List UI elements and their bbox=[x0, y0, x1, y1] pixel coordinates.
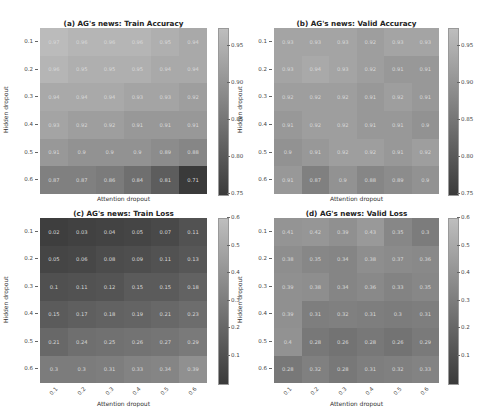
heatmap-cell: 0.43 bbox=[357, 218, 385, 246]
colorbar-tick-label: 0.1 bbox=[231, 352, 240, 358]
heatmap-cell: 0.92 bbox=[302, 111, 330, 139]
heatmap-cell: 0.37 bbox=[384, 246, 412, 274]
heatmap-cell: 0.17 bbox=[68, 301, 96, 329]
colorbar-tick-label: 0.85 bbox=[461, 116, 473, 122]
x-axis-label: Attention dropout bbox=[274, 400, 439, 407]
heatmap-cell: 0.31 bbox=[302, 301, 330, 329]
heatmap-cell: 0.92 bbox=[384, 83, 412, 111]
heatmap-cell: 0.12 bbox=[96, 273, 124, 301]
y-axis-label: Hidden dropout bbox=[236, 276, 243, 323]
x-tick-label: 0.3 bbox=[337, 386, 347, 396]
heatmap-cell: 0.28 bbox=[274, 356, 302, 384]
colorbar-tick-label: 0.80 bbox=[231, 153, 243, 159]
heatmap-cell: 0.9 bbox=[96, 139, 124, 167]
heatmap-cell: 0.27 bbox=[151, 328, 179, 356]
heatmap-cell: 0.34 bbox=[151, 356, 179, 384]
x-tick-label: 0.3 bbox=[104, 386, 114, 396]
x-tick-label: 0.4 bbox=[364, 386, 374, 396]
heatmap-cell: 0.1 bbox=[40, 273, 68, 301]
heatmap-cell: 0.91 bbox=[357, 111, 385, 139]
heatmap-cell: 0.91 bbox=[384, 111, 412, 139]
y-tick-label: 0.4 bbox=[249, 310, 267, 316]
heatmap-cell: 0.91 bbox=[412, 56, 440, 84]
heatmap-cell: 0.26 bbox=[124, 328, 152, 356]
heatmap-cell: 0.33 bbox=[412, 356, 440, 384]
y-axis-label: Hidden dropout bbox=[236, 86, 243, 133]
y-tick-label: 0.1 bbox=[249, 228, 267, 234]
heatmap-cell: 0.04 bbox=[96, 218, 124, 246]
heatmap-cell: 0.15 bbox=[40, 301, 68, 329]
colorbar-tick-label: 0.75 bbox=[461, 190, 473, 196]
y-tick-label: 0.1 bbox=[15, 228, 33, 234]
colorbar bbox=[218, 28, 229, 196]
heatmap-cell: 0.94 bbox=[302, 56, 330, 84]
heatmap-cell: 0.11 bbox=[151, 246, 179, 274]
heatmap-cell: 0.88 bbox=[179, 139, 207, 167]
colorbar bbox=[448, 28, 459, 196]
heatmap-cell: 0.88 bbox=[357, 166, 385, 194]
colorbar-tick-label: 0.4 bbox=[461, 269, 470, 275]
heatmap-cell: 0.13 bbox=[179, 246, 207, 274]
heatmap-cell: 0.91 bbox=[124, 111, 152, 139]
heatmap-cell: 0.91 bbox=[302, 139, 330, 167]
heatmap-cell: 0.28 bbox=[302, 328, 330, 356]
x-tick-label: 0.6 bbox=[187, 386, 197, 396]
x-tick-label: 0.5 bbox=[392, 386, 402, 396]
x-tick-label: 0.1 bbox=[282, 386, 292, 396]
y-tick-label: 0.6 bbox=[249, 365, 267, 371]
heatmap-cell: 0.92 bbox=[274, 83, 302, 111]
heatmap-cell: 0.05 bbox=[40, 246, 68, 274]
heatmap-cell: 0.89 bbox=[384, 166, 412, 194]
heatmap-grid: 0.410.420.390.430.350.30.380.350.340.380… bbox=[274, 218, 439, 383]
heatmap-cell: 0.92 bbox=[68, 111, 96, 139]
y-tick-label: 0.3 bbox=[249, 93, 267, 99]
y-tick-label: 0.2 bbox=[249, 66, 267, 72]
colorbar-tick-label: 0.75 bbox=[231, 190, 243, 196]
colorbar-tick-label: 0.4 bbox=[231, 269, 240, 275]
heatmap-cell: 0.92 bbox=[357, 139, 385, 167]
heatmap-cell: 0.19 bbox=[124, 301, 152, 329]
heatmap-cell: 0.94 bbox=[179, 28, 207, 56]
y-axis-label: Hidden dropout bbox=[2, 86, 9, 133]
heatmap-cell: 0.93 bbox=[124, 83, 152, 111]
heatmap-cell: 0.92 bbox=[412, 139, 440, 167]
heatmap-cell: 0.92 bbox=[302, 83, 330, 111]
colorbar-tick-label: 0.2 bbox=[461, 324, 470, 330]
heatmap-cell: 0.95 bbox=[151, 28, 179, 56]
heatmap-cell: 0.91 bbox=[384, 56, 412, 84]
heatmap-cell: 0.36 bbox=[357, 273, 385, 301]
heatmap-cell: 0.9 bbox=[412, 166, 440, 194]
y-tick-label: 0.1 bbox=[249, 38, 267, 44]
heatmap-cell: 0.94 bbox=[151, 56, 179, 84]
heatmap-cell: 0.05 bbox=[124, 218, 152, 246]
heatmap-cell: 0.92 bbox=[329, 111, 357, 139]
heatmap-cell: 0.31 bbox=[412, 301, 440, 329]
heatmap-cell: 0.95 bbox=[124, 56, 152, 84]
heatmap-cell: 0.32 bbox=[329, 301, 357, 329]
chart-title: (a) AG's news: Train Accuracy bbox=[40, 19, 207, 28]
heatmap-cell: 0.91 bbox=[151, 111, 179, 139]
heatmap-cell: 0.25 bbox=[96, 328, 124, 356]
colorbar-tick-label: 0.95 bbox=[461, 42, 473, 48]
chart-title: (d) AG's news: Valid Loss bbox=[274, 209, 439, 218]
heatmap-cell: 0.86 bbox=[96, 166, 124, 194]
heatmap-cell: 0.34 bbox=[329, 246, 357, 274]
heatmap-cell: 0.24 bbox=[68, 328, 96, 356]
heatmap-cell: 0.87 bbox=[68, 166, 96, 194]
heatmap-cell: 0.35 bbox=[302, 246, 330, 274]
y-tick-label: 0.6 bbox=[15, 176, 33, 182]
heatmap-cell: 0.92 bbox=[329, 139, 357, 167]
heatmap-cell: 0.93 bbox=[329, 28, 357, 56]
colorbar-tick-label: 0.6 bbox=[231, 214, 240, 220]
heatmap-cell: 0.26 bbox=[329, 328, 357, 356]
y-tick-label: 0.4 bbox=[15, 310, 33, 316]
y-tick-label: 0.5 bbox=[249, 149, 267, 155]
heatmap-grid: 0.020.030.040.050.070.110.050.060.080.09… bbox=[40, 218, 207, 383]
y-tick-label: 0.5 bbox=[15, 338, 33, 344]
heatmap-cell: 0.91 bbox=[274, 111, 302, 139]
heatmap-cell: 0.35 bbox=[384, 218, 412, 246]
y-tick-label: 0.5 bbox=[15, 149, 33, 155]
heatmap-cell: 0.11 bbox=[68, 273, 96, 301]
heatmap-cell: 0.39 bbox=[329, 218, 357, 246]
heatmap-cell: 0.07 bbox=[151, 218, 179, 246]
